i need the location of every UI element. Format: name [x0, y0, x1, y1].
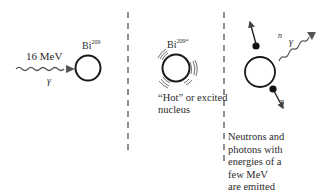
caption-line: nucleus: [158, 104, 227, 116]
residual-nucleus: [245, 57, 275, 87]
neutron-top-arrow: [250, 22, 256, 44]
incoming-photon-wave: [16, 68, 64, 71]
neutron-bottom-label: n: [280, 97, 284, 106]
caption-line: energies of a: [228, 156, 284, 169]
caption-line: Neutrons and: [228, 131, 284, 144]
excited-caption: “Hot” or excited nucleus: [158, 92, 227, 116]
emission-caption: Neutrons and photons with energies of a …: [228, 131, 284, 190]
bi209-excited-label: Bi209*: [167, 38, 188, 50]
emitted-gamma-label: γ: [289, 36, 293, 47]
caption-line: photons with: [228, 144, 284, 157]
caption-line: few MeV: [228, 169, 284, 182]
photon-energy-label: 16 MeV: [26, 50, 62, 62]
caption-line: “Hot” or excited: [158, 92, 227, 104]
mass-number: 209*: [176, 38, 188, 44]
incoming-photon-arrowhead: [66, 65, 75, 73]
bi209-nucleus: [76, 56, 101, 81]
incoming-gamma-label: γ: [47, 75, 51, 86]
emitted-photon-wave: [279, 37, 309, 61]
caption-line: are emitted: [228, 181, 284, 190]
bi209-label: Bi209: [82, 39, 100, 51]
bi209-excited-nucleus: [163, 55, 190, 82]
neutron-top-label: n: [278, 31, 282, 40]
neutron-bottom: [269, 85, 276, 92]
mass-number: 209: [91, 39, 100, 45]
